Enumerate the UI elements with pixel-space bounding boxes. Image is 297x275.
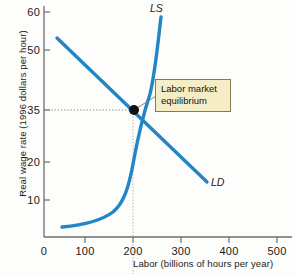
x-axis-ticks [85, 237, 277, 243]
x-tick-label-200: 200 [115, 245, 151, 257]
labor-demand-curve-label: LD [211, 176, 224, 188]
x-tick-label-0: 0 [26, 245, 62, 257]
y-axis-title: Real wage rate (1996 dollars per hour) [17, 29, 28, 199]
x-tick-label-100: 100 [67, 245, 103, 257]
labor-supply-curve-label: LS [150, 2, 163, 14]
y-axis-ticks [44, 12, 50, 200]
chart-plot-area [0, 0, 297, 275]
x-tick-label-400: 400 [211, 245, 247, 257]
equilibrium-callout-box: Labor market equilibrium [155, 79, 231, 112]
equilibrium-point-marker [129, 105, 139, 115]
x-tick-label-500: 500 [259, 245, 295, 257]
x-axis-title: Labor (billions of hours per year) [133, 258, 273, 269]
labor-market-chart: 60 50 35 20 10 0 100 200 300 400 500 Rea… [0, 0, 297, 275]
y-tick-label-60: 60 [14, 6, 40, 18]
equilibrium-callout-line-1: Labor market [161, 83, 226, 95]
equilibrium-callout-line-2: equilibrium [161, 95, 226, 107]
x-tick-label-300: 300 [163, 245, 199, 257]
